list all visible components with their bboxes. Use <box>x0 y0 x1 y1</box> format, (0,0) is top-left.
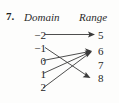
domain-value-2: 0 <box>24 55 46 67</box>
domain-value-4: 2 <box>24 81 46 93</box>
arrow-2-to-6 <box>43 52 92 88</box>
arrow-neg2-to-5 <box>45 32 95 38</box>
range-value-1: 6 <box>98 45 110 57</box>
arrow-1-to-6 <box>43 51 92 74</box>
domain-column-heading: Domain <box>24 11 59 23</box>
domain-value-1: −1 <box>24 42 46 54</box>
range-value-3: 8 <box>98 72 110 84</box>
range-column-heading: Range <box>79 11 107 23</box>
arrow-neg1-to-8 <box>45 48 91 79</box>
domain-value-3: 1 <box>24 68 46 80</box>
arrow-0-to-6 <box>43 48 92 60</box>
problem-number: 7. <box>6 10 14 22</box>
mapping-diagram-figure: 7. Domain Range −2 −1 0 1 2 5 6 7 8 <box>0 0 119 103</box>
domain-value-0: −2 <box>24 29 46 41</box>
range-value-2: 7 <box>98 59 110 71</box>
range-value-0: 5 <box>98 29 110 41</box>
